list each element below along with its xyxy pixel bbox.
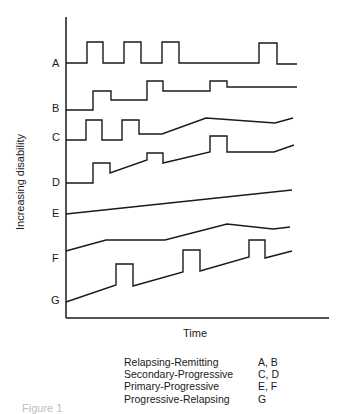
legend-curves: C, D [258, 368, 279, 380]
legend-curves: E, F [258, 380, 277, 392]
curve-c [66, 118, 293, 140]
curve-f [66, 224, 290, 251]
curve-g [66, 240, 292, 302]
legend-type: Progressive-Relapsing [124, 393, 258, 405]
curve-label-e: E [52, 207, 59, 219]
curve-d [66, 136, 294, 183]
legend-curves: G [258, 393, 266, 405]
figure-caption: Figure 1 [22, 402, 62, 414]
y-axis-label: Increasing disability [14, 134, 26, 230]
curve-label-b: B [52, 102, 59, 114]
curve-label-f: F [52, 252, 59, 264]
curve-a [66, 42, 297, 64]
legend-type: Secondary-Progressive [124, 368, 258, 380]
legend-type: Primary-Progressive [124, 380, 258, 392]
legend-row: Secondary-Progressive C, D [124, 368, 279, 380]
legend: Relapsing-Remitting A, B Secondary-Progr… [124, 356, 279, 405]
legend-curves: A, B [258, 356, 278, 368]
x-axis-label: Time [183, 327, 207, 339]
legend-row: Relapsing-Remitting A, B [124, 356, 279, 368]
curve-label-a: A [52, 57, 60, 69]
legend-row: Progressive-Relapsing G [124, 393, 279, 405]
curve-label-d: D [52, 176, 60, 188]
curve-label-g: G [51, 294, 60, 306]
legend-type: Relapsing-Remitting [124, 356, 258, 368]
legend-row: Primary-Progressive E, F [124, 380, 279, 392]
curve-b [66, 81, 297, 110]
curve-e [66, 190, 292, 214]
curve-label-c: C [52, 131, 60, 143]
